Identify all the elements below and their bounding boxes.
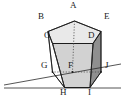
vertex-label-H: H	[60, 88, 67, 97]
vertex-label-C: C	[44, 31, 50, 40]
vertex-label-I: I	[88, 88, 91, 97]
vertex-dot-F	[72, 71, 74, 73]
vertex-dot-J	[100, 71, 102, 73]
geometry-figure: A B C D E F G H I J	[0, 0, 121, 100]
vertex-label-J: J	[105, 61, 109, 70]
vertex-label-G: G	[41, 61, 48, 70]
vertex-label-F: F	[68, 61, 73, 70]
vertex-dot-G	[52, 71, 54, 73]
vertex-label-D: D	[88, 31, 95, 40]
vertex-label-E: E	[104, 12, 110, 21]
pentagonal-prism-svg	[0, 0, 121, 100]
vertex-label-B: B	[38, 12, 44, 21]
vertex-label-A: A	[70, 1, 77, 10]
